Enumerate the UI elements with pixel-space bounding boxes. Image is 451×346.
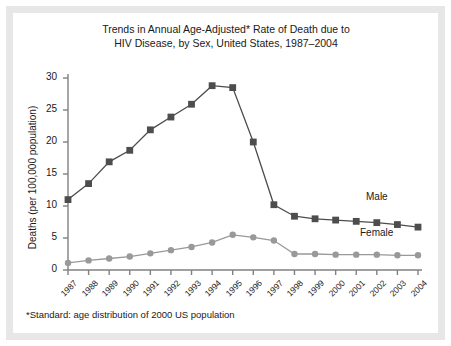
y-tick-label: 10 [35,199,57,210]
y-tick-label: 0 [35,263,57,274]
y-tick-label: 20 [35,135,57,146]
y-tick-label: 25 [35,103,57,114]
series-label-male: Male [366,191,388,202]
y-tick-label: 5 [35,231,57,242]
y-tick-label: 15 [35,167,57,178]
figure-container: Trends in Annual Age-Adjusted* Rate of D… [0,0,451,346]
plot-area: Deaths (per 100,000 population) 05101520… [0,0,451,346]
series-label-female: Female [360,227,393,238]
chart-footnote: *Standard: age distribution of 2000 US p… [26,309,235,320]
y-tick-label: 30 [35,71,57,82]
